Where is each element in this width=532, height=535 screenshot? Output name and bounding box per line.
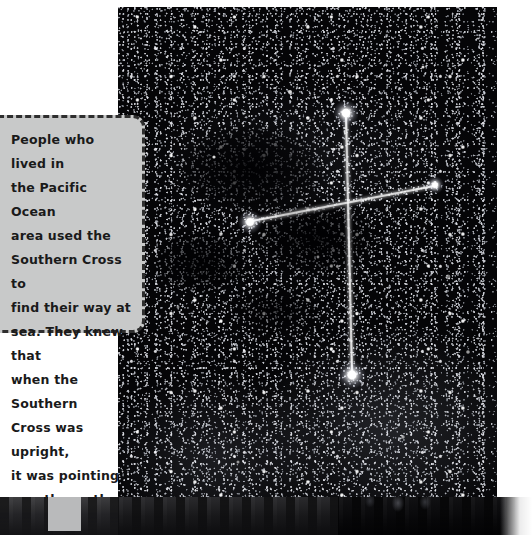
caption-text: People who lived in the Pacific Ocean ar… (11, 128, 132, 512)
strip-light-tab-a (52, 497, 62, 499)
page-margin-right (497, 0, 532, 497)
strip-right-white-edge (500, 497, 532, 535)
page-root: People who lived in the Pacific Ocean ar… (0, 0, 532, 535)
page-edge-shadow-strip (0, 497, 532, 535)
southern-cross-overlay (118, 7, 497, 497)
strip-light-tab-b (68, 497, 78, 499)
strip-light-block (48, 497, 81, 531)
southern-cross-photo (118, 7, 497, 497)
page-margin-upper-left (0, 0, 118, 115)
caption-box: People who lived in the Pacific Ocean ar… (0, 115, 145, 333)
